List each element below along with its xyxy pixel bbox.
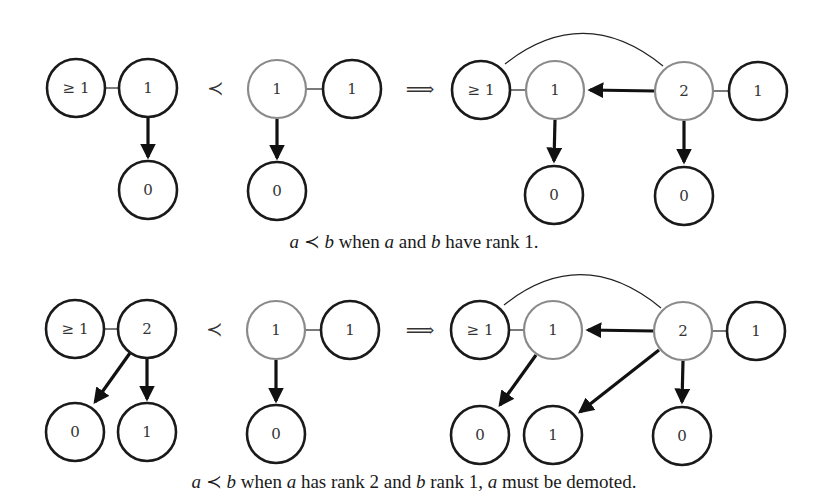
svg-text:1: 1 — [142, 423, 152, 441]
svg-text:0: 0 — [271, 425, 281, 443]
figure-canvas: ≥ 1 1 0 ≺ 1 1 0 ⟹ — [0, 0, 828, 496]
precedes-symbol: ≺ — [206, 317, 223, 341]
tree-node: ≥ 1 — [452, 61, 510, 119]
tree-node: ≥ 1 — [47, 59, 105, 117]
child-edge-arrow — [580, 350, 659, 412]
tree-node: 2 — [118, 300, 176, 358]
svg-text:1: 1 — [143, 79, 153, 97]
svg-text:1: 1 — [272, 80, 282, 98]
panel-rank2: ≥ 1 2 0 1 ≺ 1 1 0 ⟹ — [46, 275, 785, 492]
tree-node-highlighted: 1 — [526, 61, 584, 119]
tree-node-highlighted: 2 — [654, 302, 712, 360]
tree-node-highlighted: 1 — [247, 301, 305, 359]
caption-rank2: a ≺ b when a has rank 2 and b rank 1, a … — [191, 471, 636, 492]
svg-text:≥ 1: ≥ 1 — [63, 79, 90, 97]
tree-node: 0 — [119, 161, 177, 219]
tree-node-highlighted: 1 — [524, 301, 582, 359]
tree-node: 1 — [323, 60, 381, 118]
svg-text:1: 1 — [753, 82, 763, 100]
tree-node: 1 — [321, 301, 379, 359]
svg-text:≥ 1: ≥ 1 — [467, 321, 494, 339]
svg-text:2: 2 — [679, 82, 689, 100]
svg-text:1: 1 — [548, 321, 558, 339]
panel-rank1: ≥ 1 1 0 ≺ 1 1 0 ⟹ — [47, 33, 787, 252]
svg-text:1: 1 — [345, 321, 355, 339]
child-edge-arrow — [682, 361, 683, 402]
tree-node: 1 — [524, 406, 582, 464]
tree-node: 0 — [451, 406, 509, 464]
tree-node: 0 — [247, 405, 305, 463]
svg-text:0: 0 — [677, 427, 687, 445]
svg-text:1: 1 — [751, 322, 761, 340]
svg-text:0: 0 — [475, 426, 485, 444]
svg-text:1: 1 — [347, 80, 357, 98]
tree-node: 0 — [525, 166, 583, 224]
tree-node: ≥ 1 — [451, 301, 509, 359]
svg-text:0: 0 — [679, 187, 689, 205]
implies-symbol: ⟹ — [406, 318, 435, 342]
tree-node: 1 — [729, 62, 787, 120]
tree-node-highlighted: 1 — [248, 60, 306, 118]
tree-node-highlighted: 2 — [655, 62, 713, 120]
svg-text:1: 1 — [548, 426, 558, 444]
child-edge-arrow — [590, 90, 655, 91]
tree-node: 0 — [655, 167, 713, 225]
svg-text:2: 2 — [142, 320, 152, 338]
svg-text:≥ 1: ≥ 1 — [468, 81, 495, 99]
tree-node: 1 — [727, 302, 785, 360]
tree-node: 1 — [118, 403, 176, 461]
svg-text:0: 0 — [70, 423, 80, 441]
svg-text:1: 1 — [271, 321, 281, 339]
child-edge-arrow — [95, 353, 130, 402]
tree-node: 1 — [119, 59, 177, 117]
tree-node: 0 — [653, 407, 711, 465]
precedes-symbol: ≺ — [207, 76, 224, 100]
svg-text:0: 0 — [272, 182, 282, 200]
child-edge-arrow — [588, 330, 654, 331]
child-edge-arrow — [500, 355, 536, 405]
tree-node: 0 — [46, 403, 104, 461]
svg-text:≥ 1: ≥ 1 — [62, 320, 89, 338]
arc-edge — [505, 33, 663, 66]
tree-node: ≥ 1 — [46, 300, 104, 358]
caption-rank1: a ≺ b when a and b have rank 1. — [289, 231, 538, 252]
svg-text:0: 0 — [143, 181, 153, 199]
svg-text:1: 1 — [550, 81, 560, 99]
arc-edge — [504, 275, 661, 308]
tree-node: 0 — [248, 162, 306, 220]
svg-text:2: 2 — [678, 322, 688, 340]
child-edge-arrow — [554, 120, 555, 161]
implies-symbol: ⟹ — [406, 77, 435, 101]
svg-text:0: 0 — [549, 186, 559, 204]
